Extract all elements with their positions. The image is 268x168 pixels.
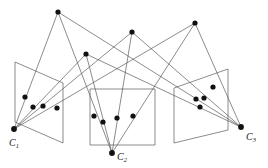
image-point [91, 113, 96, 118]
image-point [197, 104, 202, 109]
projection-ray [14, 54, 86, 129]
image-point [193, 96, 198, 101]
multi-view-geometry-figure: C1 C2 C3 [0, 0, 268, 168]
projection-ray [132, 32, 241, 127]
camera-label-subscript: 1 [16, 142, 19, 149]
scene-point [192, 20, 197, 25]
image-point [100, 119, 105, 124]
scene-canvas [0, 0, 268, 168]
scene-point [55, 9, 60, 14]
camera-label-subscript: 2 [124, 156, 127, 163]
camera-center-c3 [238, 124, 244, 130]
camera-label-text: C [117, 151, 124, 162]
projection-ray [14, 32, 132, 129]
camera-label-c1: C1 [9, 138, 19, 148]
camera-center-c1 [11, 126, 17, 132]
projection-rays-group [14, 12, 241, 153]
scene-point [83, 51, 88, 56]
camera-center-c2 [109, 150, 115, 156]
image-point [201, 95, 206, 100]
camera-label-c3: C3 [246, 132, 256, 142]
image-planes-group [15, 62, 228, 145]
image-point [40, 103, 45, 108]
image-point [114, 115, 119, 120]
image-point [210, 84, 215, 89]
scene-points-group [55, 9, 197, 56]
image-point [22, 94, 27, 99]
camera-label-text: C [246, 131, 253, 142]
projection-ray [58, 12, 241, 127]
projection-ray [112, 32, 132, 153]
projection-ray [86, 54, 241, 127]
projection-ray [195, 23, 241, 127]
camera-label-subscript: 3 [253, 136, 256, 143]
camera-label-text: C [9, 137, 16, 148]
image-point [54, 105, 59, 110]
projection-ray [14, 12, 58, 129]
projection-ray [58, 12, 112, 153]
projection-ray [112, 23, 195, 153]
camera-label-c2: C2 [117, 152, 127, 162]
projection-ray [14, 23, 195, 129]
image-point [30, 104, 35, 109]
scene-point [129, 29, 134, 34]
image-point [130, 113, 135, 118]
